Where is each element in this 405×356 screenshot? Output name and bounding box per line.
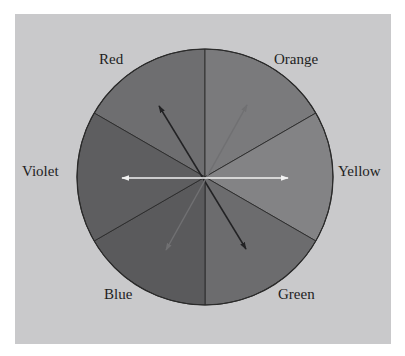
- label-yellow: Yellow: [338, 164, 381, 179]
- label-blue: Blue: [104, 287, 132, 302]
- label-green: Green: [278, 287, 315, 302]
- label-violet: Violet: [22, 164, 59, 179]
- label-orange: Orange: [274, 52, 318, 67]
- label-red: Red: [99, 52, 123, 67]
- wheel-sectors: [77, 49, 333, 305]
